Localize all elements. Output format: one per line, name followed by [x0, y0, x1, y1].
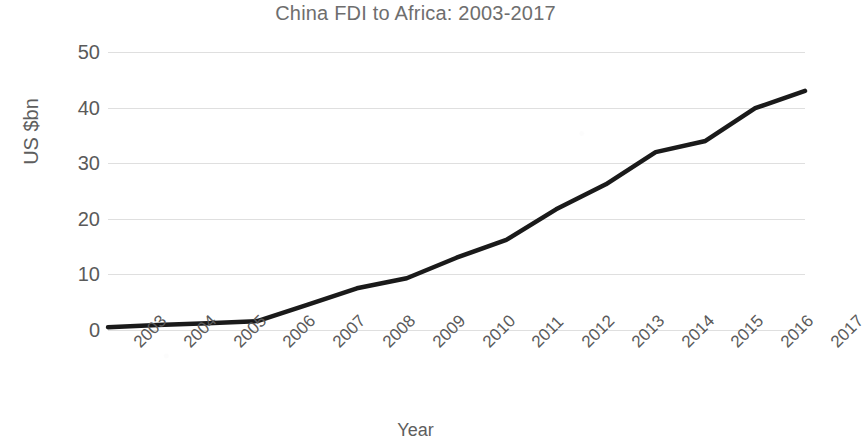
y-tick-label: 50 [44, 41, 100, 64]
x-tick-label: 2016 [777, 338, 791, 352]
x-tick-label: 2017 [827, 338, 841, 352]
chart-title: China FDI to Africa: 2003-2017 [0, 2, 831, 25]
plot-area [108, 52, 805, 330]
x-tick-label: 2004 [180, 338, 194, 352]
x-tick-label: 2011 [528, 338, 542, 352]
x-tick-label: 2006 [279, 338, 293, 352]
x-axis-tick-labels: 2003200420052006200720082009201020112012… [0, 338, 831, 408]
x-tick-label: 2003 [130, 338, 144, 352]
y-axis-tick-labels: 01020304050 [0, 52, 100, 330]
x-tick-label: 2014 [678, 338, 692, 352]
x-tick-label: 2009 [429, 338, 443, 352]
x-tick-label: 2013 [628, 338, 642, 352]
y-tick-label: 20 [44, 207, 100, 230]
x-tick-label: 2008 [379, 338, 393, 352]
y-tick-label: 40 [44, 96, 100, 119]
data-line-series [108, 52, 805, 330]
x-tick-label: 2007 [329, 338, 343, 352]
x-tick-label: 2015 [727, 338, 741, 352]
x-tick-label: 2012 [578, 338, 592, 352]
y-tick-label: 30 [44, 152, 100, 175]
x-axis-title: Year [0, 420, 831, 441]
series-polyline [108, 91, 805, 327]
y-tick-label: 10 [44, 263, 100, 286]
x-tick-label: 2010 [479, 338, 493, 352]
x-tick-label: 2005 [230, 338, 244, 352]
